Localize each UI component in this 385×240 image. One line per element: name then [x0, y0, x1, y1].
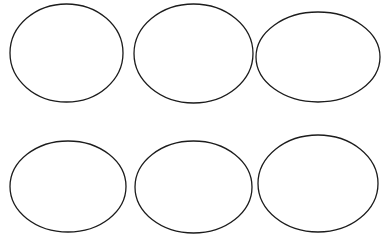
ellipse-canvas — [0, 0, 385, 240]
oval-diagram — [0, 0, 385, 240]
ellipse-top-left — [10, 4, 123, 102]
ellipse-top-right — [256, 12, 380, 102]
ellipse-bottom-center — [135, 141, 252, 233]
ellipse-bottom-left — [10, 141, 126, 232]
ellipse-top-center — [134, 4, 253, 103]
ellipse-bottom-right — [258, 135, 378, 232]
